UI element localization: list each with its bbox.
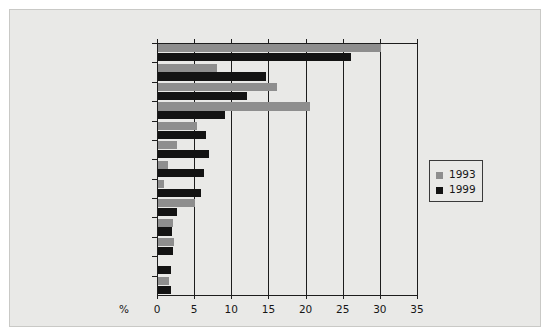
y-axis-line — [157, 43, 158, 295]
y-tick-mark — [152, 256, 157, 257]
bar-1993 — [158, 83, 277, 91]
bar-1999 — [158, 53, 351, 61]
x-tick-label: 5 — [174, 304, 214, 315]
y-tick-mark — [152, 140, 157, 141]
plot-top-line — [157, 43, 418, 44]
bar-1999 — [158, 169, 204, 177]
bar-1999 — [158, 150, 209, 158]
x-tick-label: 25 — [323, 304, 363, 315]
gridline — [343, 43, 344, 295]
bar-1999 — [158, 92, 247, 100]
y-tick-mark — [152, 43, 157, 44]
gridline — [231, 43, 232, 295]
bar-1993 — [158, 64, 217, 72]
category-axis-labels: FranceAustraliaItalyGermanySpainUSASouth… — [10, 10, 150, 328]
x-tick-label: 35 — [397, 304, 437, 315]
bar-1999 — [158, 227, 172, 235]
bar-1993 — [158, 122, 197, 130]
bar-1993 — [158, 199, 195, 207]
y-tick-mark — [152, 101, 157, 102]
y-tick-mark — [152, 62, 157, 63]
gridline — [268, 43, 269, 295]
bar-1993 — [158, 141, 177, 149]
legend-swatch-icon — [436, 187, 443, 194]
bar-1999 — [158, 131, 206, 139]
chart-figure: FranceAustraliaItalyGermanySpainUSASouth… — [9, 9, 541, 327]
x-tick-label: 10 — [211, 304, 251, 315]
x-tick-label: 0 — [137, 304, 177, 315]
y-tick-mark — [152, 198, 157, 199]
legend-swatch-icon — [436, 172, 443, 179]
gridline — [380, 43, 381, 295]
x-tick-label: 30 — [360, 304, 400, 315]
legend-label: 1999 — [449, 184, 476, 195]
y-axis-right-line — [417, 43, 418, 295]
gridline — [306, 43, 307, 295]
bar-1999 — [158, 208, 177, 216]
y-tick-mark — [152, 217, 157, 218]
bar-1999 — [158, 111, 225, 119]
chart-legend: 19931999 — [429, 160, 483, 202]
x-tick-label: 20 — [286, 304, 326, 315]
bar-1993 — [158, 219, 173, 227]
bar-1999 — [158, 266, 171, 274]
y-tick-mark — [152, 276, 157, 277]
legend-label: 1993 — [449, 169, 476, 180]
bar-1999 — [158, 247, 173, 255]
y-tick-mark — [152, 237, 157, 238]
x-axis-title: % — [119, 304, 129, 315]
x-tick-label: 15 — [248, 304, 288, 315]
y-tick-mark — [152, 82, 157, 83]
bar-1993 — [158, 102, 310, 110]
bar-1999 — [158, 286, 171, 294]
bar-1993 — [158, 277, 169, 285]
bar-1993 — [158, 44, 381, 52]
bar-1993 — [158, 238, 174, 246]
bar-1993 — [158, 161, 168, 169]
y-tick-mark — [152, 179, 157, 180]
x-axis-line — [157, 295, 418, 296]
y-tick-mark — [152, 121, 157, 122]
bar-1999 — [158, 72, 266, 80]
bar-1999 — [158, 189, 201, 197]
y-tick-mark — [152, 159, 157, 160]
bar-1993 — [158, 180, 164, 188]
